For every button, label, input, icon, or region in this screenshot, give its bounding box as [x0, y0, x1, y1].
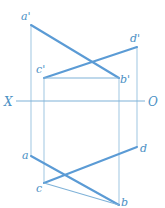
projection-figure: a' d' c' b' a d c b X O: [0, 0, 165, 208]
vertex-label-c-prime: c': [36, 63, 45, 76]
vertex-label-c: c: [36, 182, 42, 195]
axis-label-x: X: [3, 95, 13, 109]
vertex-label-a: a: [22, 149, 29, 162]
technical-drawing-canvas: a' d' c' b' a d c b X O: [0, 0, 165, 208]
vertex-label-b-prime: b': [120, 73, 130, 86]
vertex-label-b: b: [121, 196, 128, 208]
segment-c-d: [44, 147, 137, 183]
axis-label-o: O: [148, 95, 158, 109]
vertex-label-d-prime: d': [130, 32, 140, 45]
segment-c-b: [44, 183, 119, 205]
vertex-label-d: d: [140, 142, 147, 155]
vertex-label-a-prime: a': [21, 10, 31, 23]
